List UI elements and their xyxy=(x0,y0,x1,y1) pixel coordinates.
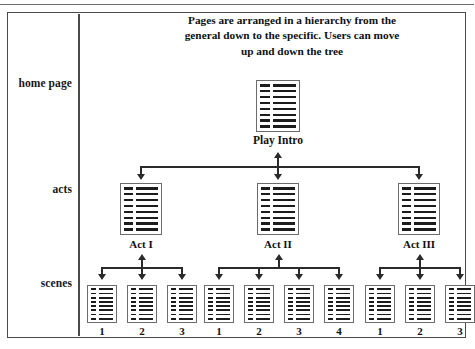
node-label-act-1-scene-3: 3 xyxy=(167,325,197,337)
page-document-icon-act-2-scene-4 xyxy=(324,285,354,323)
top-rule-divider xyxy=(0,4,474,5)
page-document-icon-act-1 xyxy=(120,183,162,235)
arrow-down-to-act-3-scene-1 xyxy=(376,274,384,280)
arrow-down-to-act-2-scene-1 xyxy=(215,274,223,280)
node-label-act-3-scene-2: 2 xyxy=(405,325,435,337)
node-label-act-2-scene-4: 4 xyxy=(324,325,354,337)
node-label-act-2-scene-1: 1 xyxy=(204,325,234,337)
figure-caption: Pages are arranged in a hierarchy from t… xyxy=(178,13,406,59)
node-label-act-3-scene-3: 3 xyxy=(445,325,475,337)
node-label-act-2-scene-2: 2 xyxy=(244,325,274,337)
node-label-act-3: Act III xyxy=(384,238,454,250)
page-document-icon-act-1-scene-1 xyxy=(87,285,117,323)
row-label-scenes: scenes xyxy=(2,277,72,289)
connector-bus-acts xyxy=(140,166,418,168)
node-label-act-2: Act II xyxy=(243,238,313,250)
page-document-icon-act-3-scene-2 xyxy=(405,285,435,323)
page-document-icon-act-2 xyxy=(257,183,299,235)
page-document-icon-root xyxy=(256,80,300,132)
node-label-act-3-scene-1: 1 xyxy=(365,325,395,337)
arrow-down-to-act-3-scene-3 xyxy=(456,274,464,280)
label-column-divider xyxy=(78,14,80,336)
row-label-home-page: home page xyxy=(2,77,72,89)
page-document-icon-act-3-scene-1 xyxy=(365,285,395,323)
page-document-icon-act-2-scene-3 xyxy=(284,285,314,323)
connector-bus-act-2-scenes xyxy=(218,267,339,269)
arrow-down-to-act-3 xyxy=(415,174,423,180)
page-document-icon-act-1-scene-2 xyxy=(127,285,157,323)
arrow-down-to-act-2-scene-3 xyxy=(295,274,303,280)
node-label-act-1-scene-2: 2 xyxy=(127,325,157,337)
page-document-icon-act-2-scene-2 xyxy=(244,285,274,323)
node-label-act-1: Act I xyxy=(106,238,176,250)
page-document-icon-act-2-scene-1 xyxy=(204,285,234,323)
figure-frame xyxy=(7,12,466,338)
arrow-down-to-act-1-scene-1 xyxy=(98,274,106,280)
arrow-down-to-act-2-scene-4 xyxy=(335,274,343,280)
node-label-play-intro: Play Intro xyxy=(236,134,320,146)
row-label-acts: acts xyxy=(2,183,72,195)
arrow-down-to-act-2-scene-2 xyxy=(255,274,263,280)
page-document-icon-act-3 xyxy=(398,183,440,235)
page-document-icon-act-3-scene-3 xyxy=(445,285,475,323)
page-document-icon-act-1-scene-3 xyxy=(167,285,197,323)
arrow-down-to-act-1-scene-3 xyxy=(178,274,186,280)
arrow-down-to-act-3-scene-2 xyxy=(416,274,424,280)
arrow-down-to-act-2 xyxy=(274,174,282,180)
node-label-act-1-scene-1: 1 xyxy=(87,325,117,337)
arrow-down-to-act-1 xyxy=(137,174,145,180)
arrow-down-to-act-1-scene-2 xyxy=(138,274,146,280)
node-label-act-2-scene-3: 3 xyxy=(284,325,314,337)
